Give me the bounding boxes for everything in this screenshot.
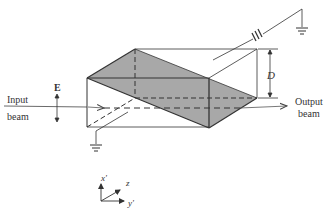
input-beam-label: Input xyxy=(7,94,28,105)
output-beam-arrow xyxy=(240,106,287,108)
dimension-d-label: D xyxy=(266,69,275,81)
output-beam-label: Output xyxy=(295,96,323,107)
voltage-source-circuit xyxy=(213,9,302,60)
input-beam-line xyxy=(4,106,87,107)
axis-y-label: y' xyxy=(127,198,135,208)
e-field-arrow-icon xyxy=(55,94,59,122)
axis-x-label: x' xyxy=(100,173,108,183)
e-field-label: E xyxy=(54,82,61,93)
input-beam-arrow xyxy=(88,107,104,108)
axis-z-label: z xyxy=(125,178,130,188)
ground-icon-bottom xyxy=(90,145,102,151)
battery-icon xyxy=(252,29,262,41)
output-beam-label-2: beam xyxy=(298,108,320,119)
electro-optic-modulator-diagram: Input beam Output beam E D x' z y' xyxy=(0,0,331,216)
input-beam-label-2: beam xyxy=(7,111,29,122)
coordinate-axes xyxy=(101,184,124,201)
bottom-ground-wire xyxy=(96,112,128,144)
ground-icon-top xyxy=(296,28,308,34)
